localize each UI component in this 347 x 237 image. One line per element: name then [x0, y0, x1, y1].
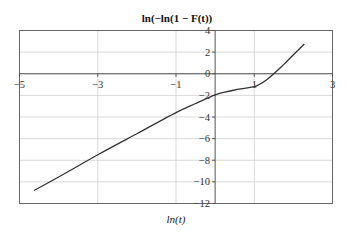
x-tick-label: −5 [14, 79, 25, 90]
y-tick-label: −12 [194, 198, 210, 209]
y-tick-label: −10 [194, 176, 210, 187]
y-tick-label: −6 [199, 133, 210, 144]
x-tick-label: 3 [330, 79, 335, 90]
x-axis-label: ln(t) [167, 213, 186, 226]
chart: ln(−ln(1 − F(t)) −5−3−113420−2−4−6−8−10−… [0, 0, 347, 237]
x-tick-label: −3 [92, 79, 103, 90]
y-tick-label: 0 [205, 68, 210, 79]
grid-lines [20, 31, 333, 204]
y-tick-label: 4 [205, 25, 211, 36]
y-tick-label: 2 [205, 47, 210, 58]
x-tick-label: −1 [170, 79, 181, 90]
y-tick-label: −8 [199, 155, 210, 166]
chart-title: ln(−ln(1 − F(t)) [142, 12, 213, 25]
x-tick-label: 1 [252, 79, 257, 90]
y-tick-label: −4 [199, 112, 211, 123]
